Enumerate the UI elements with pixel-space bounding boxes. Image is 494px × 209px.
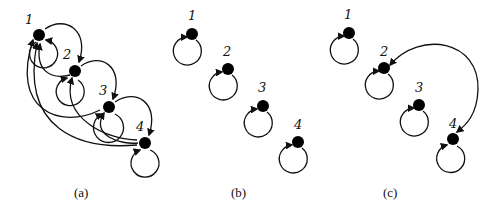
graph-figure: 1 2 3 4 (a) 1 2 3 4 (b) 1 2 3 4 <box>0 0 494 209</box>
edge-c-2-4 <box>390 44 478 132</box>
edge-c-4-4 <box>437 145 465 173</box>
node-label-c-1: 1 <box>344 7 352 22</box>
edge-b-2-2 <box>209 72 237 100</box>
edge-a-3-4 <box>115 97 152 135</box>
node-c-3 <box>413 99 425 111</box>
node-label-b-1: 1 <box>188 8 196 23</box>
panel-b: 1 2 3 4 (b) <box>173 8 307 200</box>
node-a-3 <box>103 101 115 113</box>
edge-b-1-1 <box>173 37 201 65</box>
node-label-b-4: 4 <box>293 117 302 132</box>
node-label-b-2: 2 <box>222 44 231 59</box>
node-label-c-2: 2 <box>379 44 388 59</box>
node-label-a-2: 2 <box>62 47 71 62</box>
edge-a-4-4 <box>131 150 159 177</box>
edge-b-4-4 <box>279 145 307 173</box>
node-b-2 <box>222 63 234 75</box>
node-b-4 <box>292 136 304 148</box>
panel-c: 1 2 3 4 (c) <box>330 7 478 200</box>
node-b-3 <box>257 100 269 112</box>
edge-b-3-3 <box>244 109 272 137</box>
panel-caption-b: (b) <box>231 185 246 200</box>
node-c-4 <box>447 133 459 145</box>
node-label-c-3: 3 <box>415 80 423 95</box>
node-label-c-4: 4 <box>448 116 457 131</box>
node-label-a-3: 3 <box>99 83 107 98</box>
edge-c-3-3 <box>400 108 428 136</box>
node-label-a-1: 1 <box>25 12 33 27</box>
edge-c-2-2 <box>365 71 393 99</box>
node-b-1 <box>186 28 198 40</box>
edge-c-1-1 <box>330 36 358 64</box>
node-a-2 <box>69 65 81 77</box>
node-label-b-3: 3 <box>258 80 266 95</box>
node-c-2 <box>378 62 390 74</box>
node-label-a-4: 4 <box>135 119 144 134</box>
node-a-1 <box>33 29 45 41</box>
edge-a-4-1 <box>34 43 137 146</box>
node-c-1 <box>343 27 355 39</box>
panel-a: 1 2 3 4 (a) <box>25 12 159 200</box>
panel-caption-a: (a) <box>74 185 88 200</box>
node-a-4 <box>139 137 151 149</box>
panel-caption-c: (c) <box>383 185 397 200</box>
